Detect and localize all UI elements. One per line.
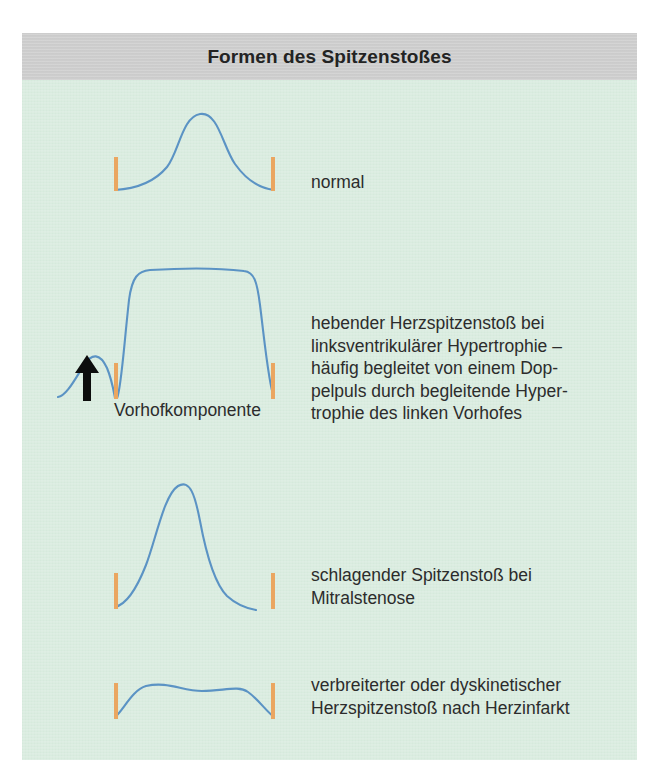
waveform-hypertrophie (22, 205, 322, 405)
figure-title: Formen des Spitzenstoßes (22, 33, 637, 80)
waveform-herzinfarkt (22, 653, 322, 760)
timing-marker-right (271, 363, 275, 399)
vorhofkomponente-arrow-icon (73, 353, 103, 403)
curve-label-herzinfarkt: verbreiterter oder dyskinetischer Herzsp… (311, 674, 570, 719)
timing-marker-right (271, 683, 275, 719)
vorhofkomponente-label: Vorhofkomponente (114, 400, 261, 421)
curve-row-mitralstenose: schlagender Spitzenstoß bei Mitralstenos… (22, 433, 637, 623)
timing-marker-right (271, 157, 275, 191)
waveform-mitralstenose (22, 433, 322, 623)
timing-marker-left (114, 363, 118, 399)
figure-panel: Formen des Spitzenstoßes normal Vorhofko… (22, 33, 637, 760)
curve-row-herzinfarkt: verbreiterter oder dyskinetischer Herzsp… (22, 653, 637, 760)
waveform-normal (22, 95, 322, 205)
timing-marker-left (114, 157, 118, 191)
curve-row-hypertrophie: Vorhofkomponente hebender Herzspitzensto… (22, 205, 637, 405)
curve-row-normal: normal (22, 95, 637, 205)
curve-label-hypertrophie: hebender Herzspitzenstoß bei linksventri… (311, 312, 568, 425)
timing-marker-left (114, 573, 118, 609)
timing-marker-right (271, 573, 275, 609)
curve-label-mitralstenose: schlagender Spitzenstoß bei Mitralstenos… (311, 564, 532, 609)
curve-label-normal: normal (311, 171, 365, 194)
title-band: Formen des Spitzenstoßes (22, 33, 637, 80)
timing-marker-left (114, 683, 118, 719)
